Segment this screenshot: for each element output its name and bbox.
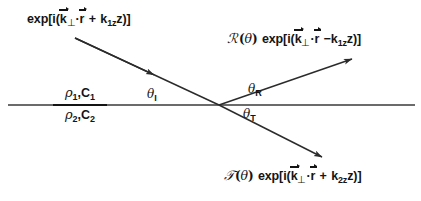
wave-reflection-refraction-figure: exp[i(k⊥·r + k1zz)] ℛ(θ) exp[i(k⊥·r −k1z…	[0, 0, 421, 201]
reflected-r-vector: r	[314, 33, 319, 46]
transmitted-operator: +	[320, 169, 327, 183]
lower-medium-speed-symbol: C	[81, 108, 90, 122]
incident-wave-suffix: )]	[122, 12, 130, 26]
transmitted-wave-suffix: )]	[353, 169, 361, 183]
reflection-coefficient-symbol: ℛ	[227, 30, 239, 46]
reflected-wave-label: ℛ(θ) exp[i(k⊥·r −k1zz)]	[227, 32, 361, 48]
transmitted-ray	[219, 105, 322, 157]
reflected-angle-subscript: R	[255, 88, 262, 98]
transmitted-ray-arrowhead	[219, 105, 322, 157]
reflected-angle-label: θR	[248, 83, 262, 98]
reflected-ray-arrowhead	[219, 59, 352, 105]
reflected-ray	[219, 59, 352, 105]
upper-medium-speed-subscript: 1	[90, 92, 95, 102]
incident-operator: +	[89, 12, 96, 26]
reflected-operator: −	[324, 32, 331, 46]
transmitted-wave-prefix: exp[i(	[258, 169, 291, 183]
incident-angle-label: θI	[147, 88, 157, 103]
medium-properties-group: ρ1,C1 ρ2,C2	[53, 86, 107, 124]
transmitted-angle-subscript: T	[250, 113, 256, 123]
reflected-theta-argument: (θ)	[239, 32, 258, 46]
lower-medium-speed-subscript: 2	[90, 114, 95, 124]
transmitted-kz-subscript: 2z	[338, 175, 347, 185]
incident-kz-subscript: 1z	[107, 18, 116, 28]
incident-ray-arrowhead	[75, 38, 154, 75]
transmitted-wave-label: 𝒯(θ) exp[i(k⊥·r + k2zz)]	[224, 169, 361, 185]
incident-angle-subscript: I	[154, 93, 157, 103]
incident-k-vector: k	[60, 13, 67, 26]
reflected-k-vector: k	[295, 33, 302, 46]
transmitted-k-vector: k	[291, 170, 298, 183]
transmission-coefficient-symbol: 𝒯	[224, 167, 235, 183]
medium-separator-rule	[53, 104, 107, 106]
reflected-kz-symbol: k	[331, 32, 338, 46]
transmitted-r-vector: r	[310, 170, 315, 183]
reflected-wave-suffix: )]	[353, 32, 361, 46]
incident-r-vector: r	[80, 13, 85, 26]
reflected-wave-prefix: exp[i(	[262, 32, 295, 46]
upper-medium-density-symbol: ρ	[65, 85, 73, 100]
reflected-kz-subscript: 1z	[338, 38, 347, 48]
incident-wave-label: exp[i(k⊥·r + k1zz)]	[27, 13, 131, 28]
upper-medium-speed-symbol: C	[81, 86, 90, 100]
upper-medium-label: ρ1,C1	[53, 86, 107, 102]
incident-wave-prefix: exp[i(	[27, 12, 60, 26]
transmitted-angle-label: θT	[243, 108, 256, 123]
lower-medium-label: ρ2,C2	[53, 108, 107, 124]
lower-medium-density-symbol: ρ	[65, 107, 73, 122]
transmitted-theta-argument: (θ)	[235, 169, 254, 183]
incident-k-subscript: ⊥	[67, 17, 76, 28]
